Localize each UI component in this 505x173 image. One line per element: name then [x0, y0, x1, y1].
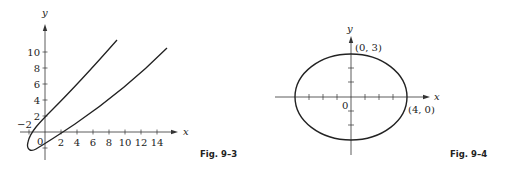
x-tick-label: 6 [90, 137, 96, 148]
parabola-curve [28, 40, 167, 150]
x-axis-label: x [434, 91, 440, 102]
figure-caption: Fig. 9–3 [200, 149, 237, 159]
x-tick-label: 8 [106, 137, 112, 148]
y-tick-label: 10 [27, 47, 40, 58]
x-axis-label: x [183, 126, 189, 137]
y-tick-label: 4 [34, 95, 40, 106]
x-tick-label: 14 [151, 137, 164, 148]
y-tick-label: 6 [34, 79, 40, 90]
y-axis-label: y [346, 23, 353, 34]
x-axis-arrow-icon [171, 130, 178, 134]
y-axis-arrow-icon [349, 36, 353, 43]
y-tick-label: 2 [34, 111, 40, 122]
y-axis-label: y [41, 7, 48, 18]
figure-caption: Fig. 9–4 [450, 149, 487, 159]
x-tick-label: 4 [74, 137, 80, 148]
figure-9-4: 0 (0, 3) (4, 0) x y Fig. 9–4 [275, 23, 487, 159]
point-right-label: (4, 0) [408, 104, 435, 115]
x-tick-label: 12 [135, 137, 148, 148]
point-top-label: (0, 3) [355, 42, 382, 53]
neg-two-label: −2 [17, 119, 32, 130]
x-tick-label: 10 [119, 137, 132, 148]
y-axis-arrow-icon [43, 24, 47, 31]
x-axis-arrow-icon [423, 95, 430, 99]
x-tick-label: 2 [58, 137, 64, 148]
y-tick-label: 8 [34, 63, 40, 74]
figure-9-3: 2 4 6 8 10 12 14 2 4 6 8 10 −2 0 x y Fig… [17, 7, 237, 160]
origin-label: 0 [342, 100, 348, 111]
